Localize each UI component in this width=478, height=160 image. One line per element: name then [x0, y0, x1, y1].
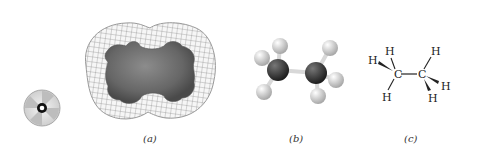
hydrogen-left-wedge: H: [368, 54, 378, 67]
hydrogen-right-top: H: [431, 45, 441, 58]
electron-density-mesh-figure: [78, 14, 220, 126]
carbon-right: C: [418, 68, 426, 81]
panel-c-caption: (c): [404, 133, 417, 144]
structural-formula: C C H H H H H H: [365, 40, 465, 110]
cd-disc-icon: [22, 88, 62, 128]
ball-and-stick-model: [250, 34, 362, 108]
hydrogen-left-top: H: [385, 45, 395, 58]
hydrogen-right-bottom: H: [428, 92, 438, 105]
hydrogen-right-wedge: H: [441, 80, 451, 93]
hydrogen-left-bottom: H: [382, 91, 392, 104]
panel-a-caption: (a): [143, 133, 157, 144]
carbon-left: C: [394, 68, 402, 81]
panel-b-caption: (b): [289, 133, 303, 144]
